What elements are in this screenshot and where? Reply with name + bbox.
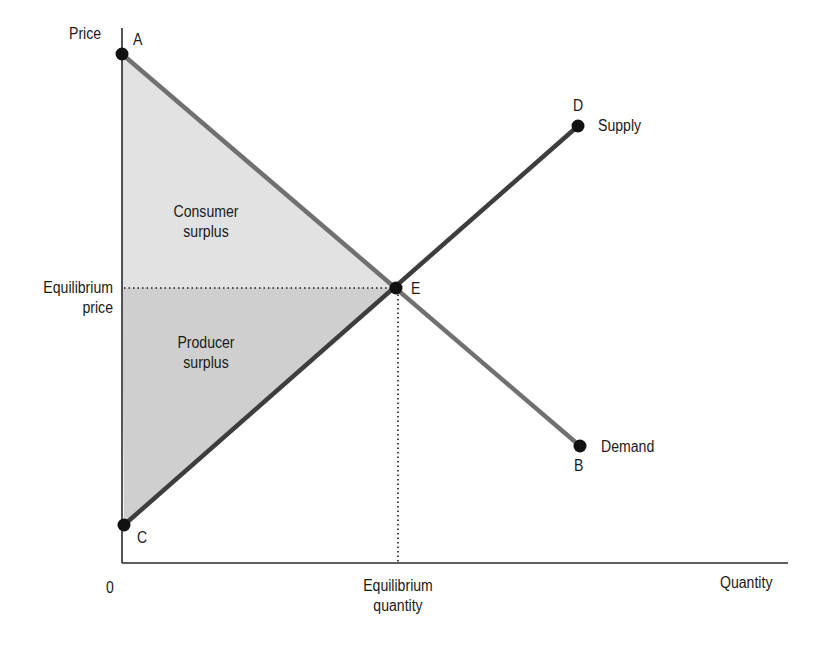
equilibrium-quantity-label: Equilibrium quantity bbox=[345, 576, 451, 616]
y-axis-label: Price bbox=[69, 24, 101, 44]
point-b-label: B bbox=[574, 456, 583, 476]
demand-label: Demand bbox=[601, 437, 654, 457]
point-c-label: C bbox=[137, 528, 147, 548]
origin-label: 0 bbox=[106, 578, 114, 598]
supply-label: Supply bbox=[598, 116, 641, 136]
point-a-label: A bbox=[133, 30, 142, 50]
point-e-label: E bbox=[411, 279, 420, 299]
point-d-label: D bbox=[573, 96, 583, 116]
point-b bbox=[574, 440, 587, 453]
consumer-surplus-label: Consumer surplus bbox=[153, 202, 259, 242]
equilibrium-price-label: Equilibrium price bbox=[14, 278, 113, 318]
point-d bbox=[572, 120, 585, 133]
surplus-diagram bbox=[0, 0, 821, 645]
point-c bbox=[118, 519, 131, 532]
producer-surplus-label: Producer surplus bbox=[153, 333, 259, 373]
point-a bbox=[116, 48, 129, 61]
point-e bbox=[390, 282, 403, 295]
x-axis-label: Quantity bbox=[720, 573, 772, 593]
